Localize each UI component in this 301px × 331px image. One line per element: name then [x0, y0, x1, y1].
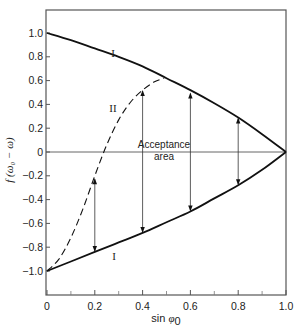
x-tick-label: 0	[44, 300, 50, 312]
y-tick-label: 0.2	[28, 122, 43, 134]
curve-label-II: II	[109, 102, 117, 114]
y-tick-label: −0.8	[22, 241, 43, 253]
acceptance-arrows	[93, 90, 241, 252]
y-tick-label: 0.8	[28, 50, 43, 62]
double-arrow	[93, 178, 97, 252]
y-tick-label: −1.0	[22, 265, 43, 277]
x-tick-label: 1.0	[279, 300, 294, 312]
arrow-head-up-icon	[140, 90, 144, 96]
double-arrow	[140, 90, 144, 233]
x-axis-label-subscript: 0	[175, 315, 181, 327]
x-tick-label: 0.6	[183, 300, 198, 312]
x-axis-label-sin: sin	[151, 312, 168, 324]
curve-label-I-lower: I	[112, 250, 116, 262]
x-tick-label: 0.8	[231, 300, 246, 312]
chart: 00.20.40.60.81.01.00.80.60.40.20−0.2−0.4…	[0, 0, 301, 331]
curve-I	[47, 33, 286, 152]
x-axis-label: sin φ0	[151, 312, 180, 327]
y-axis-label: f (ω₀ − ω)	[3, 137, 16, 183]
y-tick-label: −0.4	[22, 193, 43, 205]
x-tick-label: 0.2	[87, 300, 102, 312]
y-tick-label: 0.4	[28, 98, 43, 110]
axis-ticks: 00.20.40.60.81.01.00.80.60.40.20−0.2−0.4…	[22, 27, 293, 313]
x-tick-label: 0.4	[135, 300, 150, 312]
curve-I	[47, 152, 286, 271]
y-tick-label: 0.6	[28, 74, 43, 86]
arrow-head-up-icon	[188, 93, 192, 99]
curve-label-I-upper: I	[111, 47, 115, 59]
y-tick-label: −0.6	[22, 217, 43, 229]
acceptance-area-label-line1: Acceptance	[138, 139, 191, 150]
curve-II	[47, 78, 164, 271]
acceptance-area-label-line2: area	[154, 151, 174, 162]
y-tick-label: 1.0	[28, 27, 43, 39]
y-tick-label: −0.2	[22, 169, 43, 181]
y-tick-label: 0	[37, 146, 43, 158]
double-arrow	[236, 117, 240, 185]
